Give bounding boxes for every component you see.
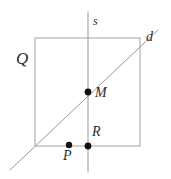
geometry-figure: Q s d M R P — [0, 0, 171, 179]
point-m-dot — [85, 89, 92, 96]
label-square-q: Q — [16, 50, 28, 67]
label-point-p: P — [63, 149, 72, 163]
label-line-d: d — [146, 30, 153, 44]
figure-canvas — [0, 0, 171, 179]
diagonal-line-d — [10, 30, 158, 170]
label-point-m: M — [95, 86, 107, 100]
point-r-dot — [85, 143, 92, 150]
label-line-s: s — [93, 15, 98, 27]
label-point-r: R — [92, 125, 101, 139]
